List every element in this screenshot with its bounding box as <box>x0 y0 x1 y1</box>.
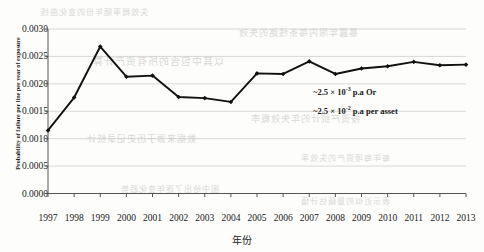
data-point-marker <box>359 66 364 71</box>
annotation-rate-per-line: ~2.5 × 10-3 p.a Or <box>313 86 376 97</box>
data-point-marker <box>385 64 390 69</box>
data-point-marker <box>411 60 416 65</box>
data-point-marker <box>202 96 207 101</box>
data-point-marker <box>438 63 443 68</box>
gridlines <box>48 29 466 194</box>
annotation-rate-per-asset: ~2.5 × 10-2 p.a per asset <box>313 105 398 116</box>
x-axis-tick-label: 2013 <box>451 213 481 223</box>
data-point-marker <box>464 62 469 67</box>
x-axis-label: 年份 <box>0 232 484 247</box>
x-axis-tick-labels: 1997199819992000200120022003200420052006… <box>0 213 484 229</box>
data-series-line <box>48 47 466 131</box>
chart-figure: 暴露年限内每条线路的失效 以其中包含的所有资产计算 按资产统计的年失效概率 数据… <box>0 0 484 252</box>
